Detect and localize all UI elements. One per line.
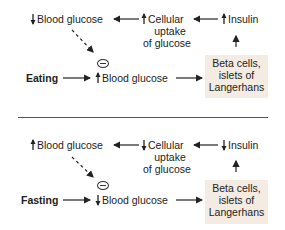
- fasting-label: Fasting: [21, 194, 58, 206]
- panel-divider: [18, 117, 268, 118]
- panel-fasting: Blood glucose Cellular uptake of glucose…: [0, 0, 285, 115]
- beta-cells-line-1: Beta cells,: [205, 182, 268, 194]
- down-arrow-icon: [142, 140, 147, 151]
- blood-glucose-result-label: Blood glucose: [37, 139, 103, 151]
- blood-glucose-input-label: Blood glucose: [102, 194, 168, 206]
- down-arrow-icon: [96, 195, 101, 206]
- beta-cells-line-3: Langerhans: [205, 206, 268, 218]
- beta-cells-line-2: islets of: [205, 194, 268, 206]
- down-arrow-icon: [222, 140, 227, 151]
- inhibition-icon: [97, 181, 109, 190]
- beta-cells-box: Beta cells, islets of Langerhans: [205, 180, 268, 224]
- of-glucose-label: of glucose: [143, 163, 191, 175]
- cellular-label: Cellular: [148, 139, 184, 151]
- uptake-label: uptake: [148, 151, 192, 163]
- arrow-feedback-dashed-2: [72, 157, 93, 177]
- up-arrow-icon: [31, 139, 36, 150]
- insulin-label: Insulin: [228, 139, 258, 151]
